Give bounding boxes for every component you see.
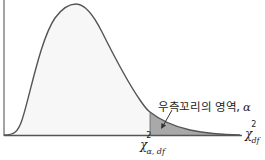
critical-value-subscript: α, df: [146, 147, 165, 156]
chi-square-diagram: [0, 0, 265, 160]
critical-value-superscript: 2: [146, 131, 151, 140]
alpha-symbol: α: [243, 100, 250, 114]
axis-label-subscript: df: [251, 136, 259, 145]
distribution-body-area: [4, 4, 150, 135]
right-tail-area-label: 우측꼬리의 영역, α: [158, 98, 250, 114]
tail-label-text: 우측꼬리의 영역,: [158, 100, 243, 114]
axis-label-superscript: 2: [251, 120, 256, 129]
critical-value-label: χ2α, df: [140, 137, 171, 154]
x-axis-label: χ2df: [245, 126, 265, 143]
